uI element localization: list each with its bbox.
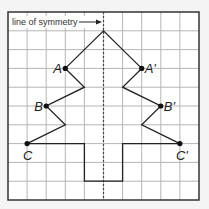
label-A: A [52,61,62,76]
point-B-prime [158,103,163,108]
label-A-prime: A' [144,61,157,76]
label-C: C [23,148,33,163]
point-C [25,141,30,146]
symmetry-annotation: line of symmetry [12,17,78,27]
point-A-prime [139,66,144,71]
label-B-prime: B' [164,99,176,114]
symmetry-diagram: line of symmetry AA'BB'CC' [0,0,209,209]
point-C-prime [177,141,182,146]
label-B: B [34,99,43,114]
point-A [63,66,68,71]
point-B [44,103,49,108]
label-C-prime: C' [176,148,188,163]
